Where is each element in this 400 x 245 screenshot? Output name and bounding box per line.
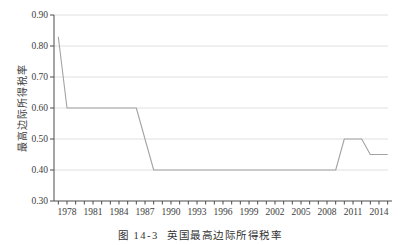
- series-line-uk-top-marginal-tax-rate: [58, 37, 387, 170]
- x-tick-label: 1996: [214, 207, 233, 217]
- y-tick-label: 0.40: [31, 165, 48, 175]
- x-tick-label: 2005: [292, 207, 311, 217]
- x-tick-label: 2002: [266, 207, 285, 217]
- x-tick-label: 2014: [370, 207, 389, 217]
- y-tick-label: 0.50: [31, 134, 48, 144]
- x-tick-label: 1984: [110, 207, 129, 217]
- x-tick-label: 2011: [344, 207, 363, 217]
- y-axis-title: 最高边际所得税率: [14, 64, 29, 152]
- y-tick-label: 0.30: [31, 196, 48, 206]
- x-tick-label: 1981: [84, 207, 103, 217]
- x-tick-label: 1999: [240, 207, 259, 217]
- x-tick-label: 2008: [318, 207, 337, 217]
- y-tick-label: 0.80: [31, 41, 48, 51]
- figure-caption: 图 14-3 英国最高边际所得税率: [0, 227, 400, 242]
- y-tick-label: 0.90: [31, 10, 48, 20]
- y-tick-label: 0.60: [31, 103, 48, 113]
- x-tick-label: 1990: [162, 207, 181, 217]
- y-tick-label: 0.70: [31, 72, 48, 82]
- figure-uk-top-marginal-tax-rate: 0.300.400.500.600.700.800.90197819811984…: [0, 0, 400, 245]
- x-tick-label: 1978: [58, 207, 77, 217]
- x-tick-label: 1993: [188, 207, 207, 217]
- x-tick-label: 1987: [136, 207, 155, 217]
- line-chart: 0.300.400.500.600.700.800.90197819811984…: [0, 0, 400, 245]
